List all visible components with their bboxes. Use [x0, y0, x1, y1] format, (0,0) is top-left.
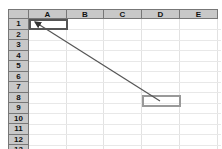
gridline — [29, 82, 221, 83]
gridline — [29, 92, 221, 93]
row-header-6[interactable]: 6 — [8, 72, 29, 83]
row-header-9[interactable]: 9 — [8, 103, 29, 114]
row-header-8[interactable]: 8 — [8, 93, 29, 104]
gridline — [29, 71, 221, 72]
highlighted-cell-d9[interactable] — [142, 95, 181, 107]
row-header-2[interactable]: 2 — [8, 30, 29, 41]
row-header-13[interactable]: 13 — [8, 145, 29, 149]
gridline — [29, 145, 221, 146]
column-header-c[interactable]: C — [104, 9, 142, 19]
row-header-4[interactable]: 4 — [8, 51, 29, 62]
select-all-corner[interactable] — [8, 9, 29, 19]
gridline — [29, 124, 221, 125]
row-header-11[interactable]: 11 — [8, 124, 29, 135]
row-header-3[interactable]: 3 — [8, 40, 29, 51]
gridline — [66, 19, 67, 149]
row-header-7[interactable]: 7 — [8, 82, 29, 93]
gridline — [29, 134, 221, 135]
gridline — [103, 19, 104, 149]
column-header-b[interactable]: B — [67, 9, 104, 19]
gridline — [29, 113, 221, 114]
row-header-10[interactable]: 10 — [8, 114, 29, 125]
row-header-12[interactable]: 12 — [8, 135, 29, 146]
gridline — [29, 50, 221, 51]
column-header-a[interactable]: A — [29, 9, 67, 19]
row-header-5[interactable]: 5 — [8, 61, 29, 72]
gridline — [179, 19, 180, 149]
gridline — [29, 40, 221, 41]
row-header-1[interactable]: 1 — [8, 19, 29, 30]
gridline — [217, 19, 218, 149]
gridline — [141, 19, 142, 149]
column-header-d[interactable]: D — [142, 9, 180, 19]
column-header-e[interactable]: E — [180, 9, 218, 19]
gridline — [29, 61, 221, 62]
gridline — [29, 103, 221, 104]
active-cell-a1[interactable] — [29, 19, 68, 30]
